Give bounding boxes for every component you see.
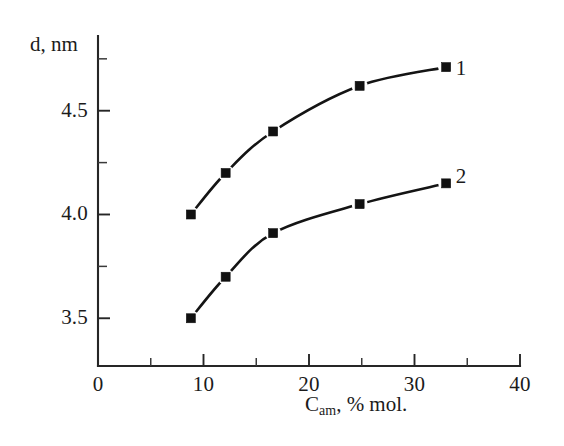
data-point-marker bbox=[269, 229, 278, 238]
x-axis-title-subscript: am bbox=[319, 403, 336, 418]
x-tick-label: 40 bbox=[490, 372, 550, 397]
y-tick-label: 4.5 bbox=[34, 98, 88, 123]
x-tick-label: 10 bbox=[174, 372, 234, 397]
y-axis-ticks bbox=[98, 59, 110, 318]
curve-label-1: 1 bbox=[456, 56, 467, 81]
y-tick-label: 4.0 bbox=[34, 201, 88, 226]
x-tick-label: 20 bbox=[279, 372, 339, 397]
x-tick-label: 30 bbox=[385, 372, 445, 397]
x-tick-label: 0 bbox=[68, 372, 128, 397]
y-tick-label: 3.5 bbox=[34, 305, 88, 330]
data-point-marker bbox=[355, 81, 364, 90]
x-axis-ticks bbox=[98, 354, 520, 366]
data-point-marker bbox=[186, 210, 195, 219]
data-point-marker bbox=[269, 127, 278, 136]
axes-group bbox=[98, 36, 520, 366]
data-point-marker bbox=[221, 168, 230, 177]
curve-label-2: 2 bbox=[456, 164, 467, 189]
data-series-group bbox=[186, 63, 450, 323]
data-point-marker bbox=[221, 272, 230, 281]
series-curve-2 bbox=[191, 183, 446, 318]
data-point-marker bbox=[355, 200, 364, 209]
data-point-marker bbox=[442, 179, 451, 188]
data-point-marker bbox=[186, 314, 195, 323]
chart-figure: d, nm Cam, % mol. 3.54.04.5010203040 12 bbox=[0, 0, 564, 446]
y-axis-title: d, nm bbox=[30, 32, 78, 57]
data-point-marker bbox=[442, 63, 451, 72]
